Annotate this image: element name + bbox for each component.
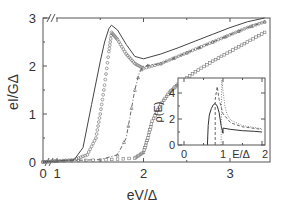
square-marker [149,128,152,131]
inset-x-tick-label: 1 [220,148,226,160]
square-marker [237,46,240,49]
circle-marker [97,125,100,128]
circle-marker [87,151,90,154]
square-marker [263,31,266,34]
circle-marker [102,93,105,96]
square-marker [240,44,243,47]
inset-y-tick-label: 0 [169,139,175,151]
square-marker [255,36,258,39]
x-tick-label: 2 [140,166,147,181]
y-tick-label: 1 [29,107,36,122]
x-axis-label: eV/Δ [127,187,157,203]
inset-x-tick-label: 2 [262,148,268,160]
square-marker [148,131,151,134]
square-marker [105,158,108,161]
square-marker [232,49,235,52]
inset-y-tick-label: 4 [169,87,175,99]
square-marker [110,158,113,161]
iv-chart: 0123 0123 eI/GΔ eV/Δ 024012 ρ(E) E/Δ [0,0,284,205]
y-axis-label: eI/GΔ [5,74,21,110]
axis-break-marks [45,14,55,166]
square-marker [122,158,125,161]
square-marker [223,54,226,57]
square-marker [234,47,237,50]
square-marker [220,55,223,58]
circle-marker [90,145,93,148]
circle-marker [107,56,110,59]
square-marker [243,42,246,45]
circle-marker [89,148,92,151]
square-marker [92,159,95,162]
y-axis-ticks: 0123 [29,11,47,170]
square-marker [246,41,249,44]
y-tick-label: 2 [29,59,36,74]
square-marker [206,63,209,66]
inset-x-tick-label: 0 [181,148,187,160]
square-marker [188,75,191,78]
x-tick-label: 0 [39,166,46,181]
circle-marker [101,98,104,101]
circle-marker [108,44,111,47]
square-marker [149,126,152,129]
circle-marker [109,37,112,40]
circle-marker [100,103,103,106]
square-marker [211,60,214,63]
circle-marker [104,78,107,81]
square-marker [229,50,232,53]
square-marker [209,62,212,65]
circle-marker [96,129,99,132]
inset-y-tick-label: 2 [169,113,175,125]
circle-marker [108,50,111,53]
circle-marker [106,61,109,64]
square-marker [258,34,261,37]
square-marker [203,65,206,68]
circle-marker [99,113,102,116]
circle-marker [102,89,105,92]
circle-marker [92,142,95,145]
inset-x-axis-label: E/Δ [232,148,250,160]
square-marker [252,38,255,41]
y-tick-label: 3 [29,11,36,26]
square-marker [217,57,220,60]
square-marker [197,69,200,72]
circle-marker [95,137,98,140]
square-marker [249,39,252,42]
x-tick-label: 1 [53,166,60,181]
circle-marker [98,117,101,120]
square-marker [116,158,119,161]
x-tick-label: 3 [226,166,233,181]
triangle-marker [133,89,136,92]
square-marker [194,70,197,73]
circle-marker [105,67,108,70]
square-marker [147,134,150,137]
circle-marker [93,139,96,142]
y-tick-label: 0 [29,155,36,170]
square-marker [200,67,203,70]
square-marker [260,33,263,36]
square-marker [226,52,229,55]
square-marker [191,73,194,76]
square-marker [214,58,217,61]
circle-marker [103,84,106,87]
circle-marker [105,73,108,76]
circle-marker [95,133,98,136]
circle-marker [203,44,206,47]
inset-y-axis-label: ρ(E) [152,102,164,123]
circle-marker [109,41,112,44]
circle-marker [97,121,100,124]
square-marker [128,157,131,160]
circle-marker [108,47,111,50]
circle-marker [100,108,103,111]
